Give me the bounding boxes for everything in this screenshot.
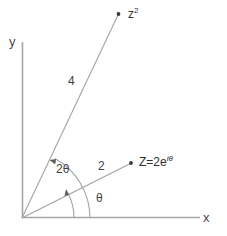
complex-plane-diagram: y x 4 2 2θ θ z2 Z=2eiθ — [0, 0, 227, 236]
point-marker-z-squared — [117, 12, 121, 16]
ray-z-squared — [22, 15, 118, 218]
point-label-z-base: Z=2e — [139, 155, 167, 169]
ray-z — [22, 164, 131, 219]
point-marker-z — [129, 161, 133, 165]
point-label-z-exponent: iθ — [167, 154, 173, 163]
diagram-canvas — [0, 0, 227, 236]
point-label-z: Z=2eiθ — [139, 156, 173, 168]
arc-two-theta-arrowhead — [50, 159, 55, 163]
angle-label-two-theta: 2θ — [56, 163, 69, 175]
magnitude-label-z: 2 — [98, 160, 105, 172]
x-axis-label: x — [203, 211, 210, 224]
arc-theta — [68, 194, 74, 218]
arc-theta-arrowhead — [65, 190, 69, 196]
point-label-z-squared: z2 — [128, 8, 138, 20]
point-label-z-squared-exponent: 2 — [134, 6, 138, 15]
y-axis-label: y — [9, 35, 16, 48]
magnitude-label-z-squared: 4 — [68, 75, 75, 87]
angle-label-theta: θ — [96, 192, 103, 204]
